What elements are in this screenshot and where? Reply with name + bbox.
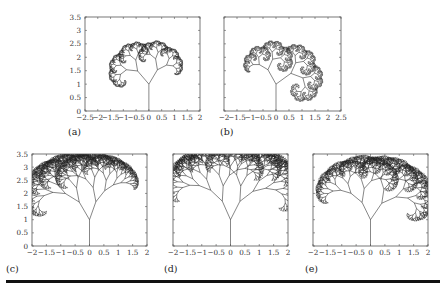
x-tick-label: −2 [168, 248, 179, 257]
x-tick-label: −1.5 [228, 113, 246, 122]
x-tick-label: 1.5 [408, 248, 420, 257]
y-tick-label: 1.5 [70, 66, 82, 75]
x-tick-label: −1.5 [179, 248, 197, 257]
y-tick-label: 2.5 [17, 176, 29, 185]
x-tick-label: 2 [286, 248, 291, 257]
y-tick-label: 3.5 [17, 150, 29, 159]
plot-frame [224, 17, 341, 111]
panel-label: (b) [220, 126, 234, 137]
x-tick-label: 2 [426, 248, 431, 257]
x-tick-label: −1 [196, 248, 207, 257]
y-tick-label: 2.5 [70, 39, 82, 48]
panel-b: −2−1.5−1−0.500.511.522.5(b) [219, 17, 347, 137]
y-tick-label: 1 [23, 215, 28, 224]
x-tick-label: 1 [116, 248, 121, 257]
bottom-rule [6, 280, 440, 283]
panel-label: (d) [164, 263, 178, 274]
x-tick-label: 2.5 [335, 113, 347, 122]
x-tick-label: 1 [172, 113, 177, 122]
tree-branches [164, 142, 303, 246]
fractal-tree [22, 151, 139, 246]
x-tick-label: 0.5 [98, 248, 110, 257]
x-tick-label: 0 [368, 248, 373, 257]
y-tick-label: 2 [23, 189, 28, 198]
x-tick-label: 0 [274, 113, 279, 122]
panel-d: −2−1.5−1−0.500.511.52(d) [164, 142, 303, 274]
x-tick-label: 0.5 [239, 248, 251, 257]
y-tick-label: 1.5 [17, 202, 29, 211]
x-tick-label: 1.5 [268, 248, 280, 257]
x-tick-label: −2 [27, 248, 38, 257]
x-tick-label: −0.5 [207, 248, 225, 257]
y-tick-label: 1 [76, 80, 81, 89]
x-tick-label: −1.5 [319, 248, 337, 257]
x-tick-label: 1 [257, 248, 262, 257]
panel-label: (e) [305, 263, 318, 274]
x-tick-label: 1 [300, 113, 305, 122]
x-tick-label: −2 [308, 248, 319, 257]
fractal-tree [164, 142, 303, 246]
x-tick-label: 0.5 [156, 113, 168, 122]
x-tick-label: −1 [55, 248, 66, 257]
panel-label: (c) [6, 263, 19, 274]
panel-e: −2−1.5−1−0.500.511.52(e) [305, 154, 435, 274]
y-tick-label: 3 [76, 26, 81, 35]
tree-branches [315, 155, 435, 246]
fractal-tree [243, 41, 323, 111]
x-tick-label: −1.5 [38, 248, 56, 257]
x-tick-label: 1.5 [182, 113, 194, 122]
panel-c: −2−1.5−1−0.500.511.5200.511.522.533.5(c) [6, 150, 149, 275]
x-tick-label: −0.5 [254, 113, 272, 122]
x-tick-label: −1 [336, 248, 347, 257]
tree-branches [109, 41, 183, 111]
x-tick-label: 0 [87, 248, 92, 257]
y-tick-label: 3 [23, 163, 28, 172]
x-tick-label: 0 [228, 248, 233, 257]
x-tick-label: 2 [326, 113, 331, 122]
y-tick-label: 3.5 [70, 13, 82, 22]
y-tick-label: 2 [76, 53, 81, 62]
x-tick-label: 2 [145, 248, 150, 257]
tree-branches [243, 41, 323, 111]
x-tick-label: −0.5 [347, 248, 365, 257]
y-tick-label: 0 [76, 107, 81, 116]
tree-branches [22, 151, 139, 246]
fractal-tree [315, 155, 435, 246]
x-tick-label: 0.5 [379, 248, 391, 257]
fractal-tree [109, 41, 183, 111]
x-tick-label: 1.5 [309, 113, 321, 122]
panel-a: −2.5−2−1.5−1−0.500.511.5200.511.522.533.… [68, 13, 202, 138]
x-tick-label: 1.5 [127, 248, 139, 257]
x-tick-label: 2 [198, 113, 203, 122]
x-tick-label: 0 [147, 113, 152, 122]
y-tick-label: 0.5 [70, 93, 82, 102]
y-tick-label: 0.5 [17, 228, 29, 237]
x-tick-label: 0.5 [283, 113, 295, 122]
x-tick-label: −0.5 [66, 248, 84, 257]
x-tick-label: −0.5 [127, 113, 145, 122]
x-tick-label: −1.5 [102, 113, 120, 122]
figure: −2.5−2−1.5−1−0.500.511.5200.511.522.533.… [0, 0, 447, 288]
y-tick-label: 0 [23, 242, 28, 251]
panel-label: (a) [68, 126, 81, 137]
x-tick-label: 1 [397, 248, 402, 257]
